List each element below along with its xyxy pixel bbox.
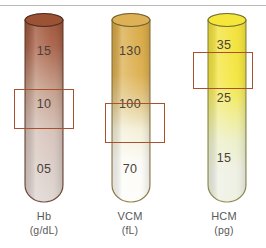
axis-caption-hb: Hb (g/dL) <box>1 209 87 237</box>
tick-label-hcm-high: 35 <box>181 38 266 52</box>
reference-range-box-hb <box>14 89 74 129</box>
tick-label-hcm-reference: 25 <box>181 91 266 105</box>
reference-range-box-vcm <box>105 103 165 143</box>
tick-label-hb-low: 05 <box>1 162 87 176</box>
tick-label-vcm-high: 130 <box>87 44 173 58</box>
axis-caption-vcm: VCM (fL) <box>87 209 173 237</box>
measure-unit-vcm: (fL) <box>87 223 173 237</box>
measure-column-vcm: 130 100 70 VCM (fL) <box>87 0 173 248</box>
measure-unit-hcm: (pg) <box>181 223 266 237</box>
measure-column-hcm: 35 25 15 HCM (pg) <box>181 0 266 248</box>
tick-label-hcm-low: 15 <box>181 151 266 165</box>
figure-canvas: 15 10 05 Hb (g/dL) <box>0 0 266 248</box>
measure-name-hb: Hb <box>37 210 51 222</box>
measure-column-hb: 15 10 05 Hb (g/dL) <box>1 0 87 248</box>
tick-label-vcm-low: 70 <box>87 162 173 176</box>
tick-label-hb-high: 15 <box>1 44 87 58</box>
reference-range-box-hcm <box>193 52 253 89</box>
measure-unit-hb: (g/dL) <box>1 223 87 237</box>
axis-caption-hcm: HCM (pg) <box>181 209 266 237</box>
measure-name-vcm: VCM <box>117 210 142 222</box>
measure-name-hcm: HCM <box>211 210 237 222</box>
